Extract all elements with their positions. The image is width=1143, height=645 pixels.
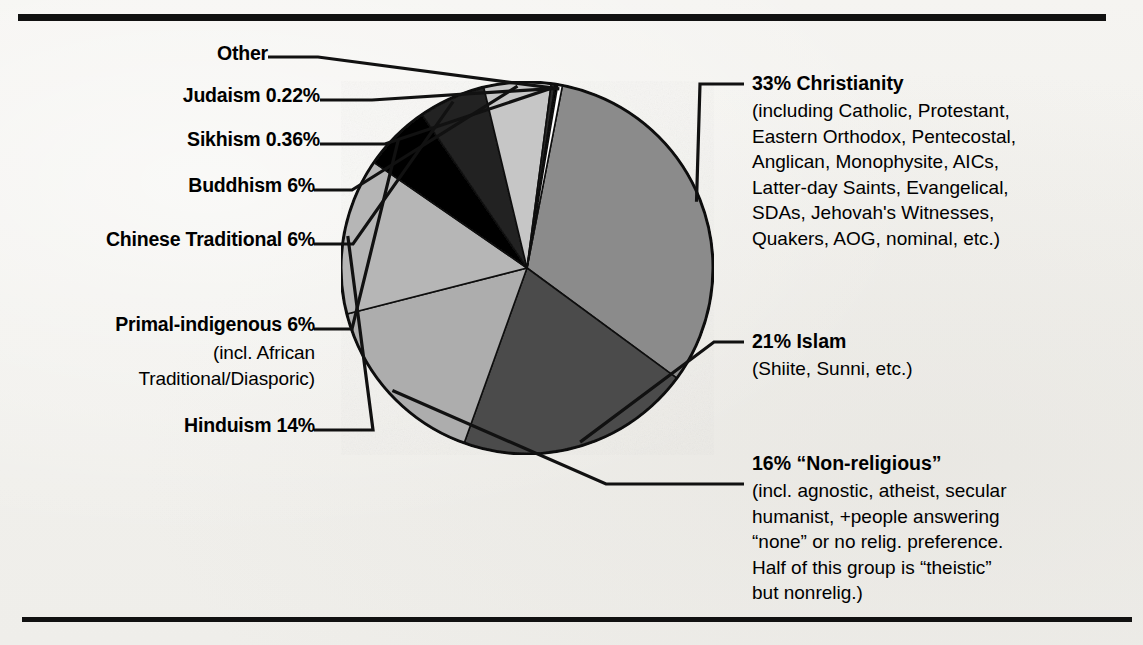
- non-religious-line-2: humanist, +people answering: [752, 504, 1007, 530]
- christianity-line-5: SDAs, Jehovah's Witnesses,: [752, 200, 1016, 226]
- non-religious-line-1: (incl. agnostic, atheist, secular: [752, 478, 1007, 504]
- pie-label-hinduism: Hinduism 14%: [184, 414, 315, 437]
- pie-label-primal-indigenous-note: (incl. African Traditional/Diasporic): [138, 340, 315, 391]
- christianity-line-2: Eastern Orthodox, Pentecostal,: [752, 124, 1016, 150]
- pie-label-sikhism: Sikhism 0.36%: [187, 128, 320, 151]
- primal-note-line-1: (incl. African: [138, 340, 315, 366]
- islam-line-1: (Shiite, Sunni, etc.): [752, 356, 913, 382]
- non-religious-detail: (incl. agnostic, atheist, secular humani…: [752, 478, 1007, 606]
- non-religious-heading: 16% “Non-religious”: [752, 452, 1007, 475]
- pie-label-buddhism: Buddhism 6%: [188, 174, 315, 197]
- islam-detail: (Shiite, Sunni, etc.): [752, 356, 913, 382]
- christianity-line-6: Quakers, AOG, nominal, etc.): [752, 226, 1016, 252]
- non-religious-line-4: Half of this group is “theistic”: [752, 555, 1007, 581]
- pie-label-islam: 21% Islam (Shiite, Sunni, etc.): [752, 330, 913, 382]
- islam-heading: 21% Islam: [752, 330, 913, 353]
- primal-note-line-2: Traditional/Diasporic): [138, 366, 315, 392]
- leader-line-christianity: [697, 84, 745, 202]
- pie-label-christianity: 33% Christianity (including Catholic, Pr…: [752, 72, 1016, 251]
- pie-label-non-religious: 16% “Non-religious” (incl. agnostic, ath…: [752, 452, 1007, 606]
- non-religious-line-3: “none” or no relig. preference.: [752, 529, 1007, 555]
- christianity-heading: 33% Christianity: [752, 72, 1016, 95]
- christianity-line-1: (including Catholic, Protestant,: [752, 98, 1016, 124]
- pie-label-other: Other: [217, 42, 268, 65]
- non-religious-line-5: but nonrelig.): [752, 580, 1007, 606]
- pie-label-primal-indigenous: Primal-indigenous 6%: [115, 313, 315, 336]
- christianity-line-4: Latter-day Saints, Evangelical,: [752, 175, 1016, 201]
- pie-label-judaism: Judaism 0.22%: [183, 84, 320, 107]
- pie-slices: [341, 82, 713, 454]
- christianity-detail: (including Catholic, Protestant, Eastern…: [752, 98, 1016, 251]
- christianity-line-3: Anglican, Monophysite, AICs,: [752, 149, 1016, 175]
- pie-label-chinese-traditional: Chinese Traditional 6%: [106, 228, 315, 251]
- pie-chart-figure: Other Judaism 0.22% Sikhism 0.36% Buddhi…: [0, 0, 1143, 645]
